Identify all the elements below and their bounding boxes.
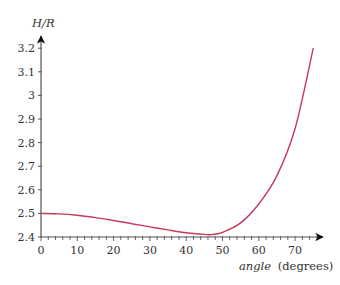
x-tick-label: 50 [216,244,230,257]
y-tick-label: 2.6 [18,184,36,197]
x-axis-title-variable: angle [239,259,271,273]
x-tick-label: 20 [107,244,121,257]
y-tick-label: 2.5 [18,207,36,220]
y-axis-ticks: 2.42.52.62.72.82.933.13.2 [18,42,43,244]
y-axis-title: H/R [31,16,55,30]
x-tick-label: 60 [252,244,266,257]
x-tick-label: 70 [288,244,302,257]
x-axis-title-unit: (degrees) [278,259,334,273]
y-tick-label: 2.8 [18,137,36,150]
y-tick-label: 2.4 [18,231,36,244]
x-tick-label: 40 [179,244,193,257]
line-chart: 2.42.52.62.72.82.933.13.2 01020304050607… [0,0,340,285]
x-tick-label: 0 [38,244,45,257]
y-tick-label: 3.1 [18,66,36,79]
x-axis-ticks: 010203040506070 [38,236,317,257]
y-tick-label: 2.7 [18,160,36,173]
x-tick-label: 10 [70,244,84,257]
data-line-h-over-r [41,48,313,235]
y-tick-label: 3 [28,89,35,102]
x-tick-label: 30 [143,244,157,257]
y-tick-label: 2.9 [18,113,36,126]
y-tick-label: 3.2 [18,42,36,55]
x-axis-title: angle (degrees) [239,259,333,273]
